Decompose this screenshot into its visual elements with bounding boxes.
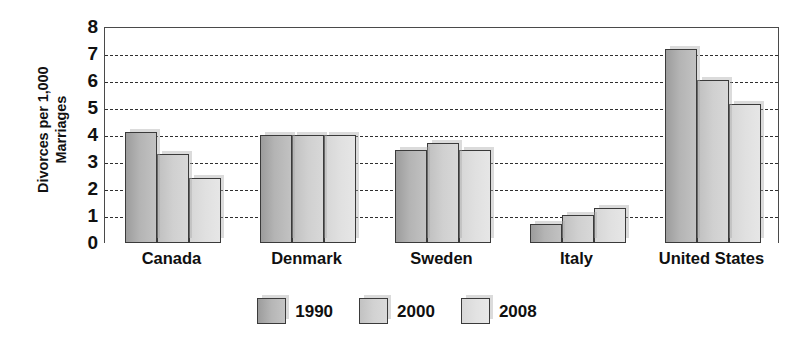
bar	[324, 135, 356, 243]
legend-swatch-icon	[257, 298, 286, 324]
bar-group	[665, 28, 761, 243]
legend-swatch-icon	[359, 298, 388, 324]
bar	[157, 154, 189, 243]
bar-group	[125, 28, 221, 243]
y-axis-title-line-2: Marriages	[53, 96, 69, 164]
y-tick-label: 2	[74, 179, 98, 198]
divorce-rate-bar-chart: Divorces per 1,000 Marriages 876543210 C…	[0, 0, 794, 356]
legend-item: 2008	[461, 298, 537, 324]
y-axis-title: Divorces per 1,000 Marriages	[35, 15, 70, 245]
y-tick-label: 8	[74, 17, 98, 36]
y-tick-label: 7	[74, 44, 98, 63]
bar	[189, 178, 221, 243]
bar	[530, 224, 562, 243]
bar	[729, 104, 761, 243]
bar	[459, 150, 491, 243]
bar	[697, 80, 729, 243]
bar-group	[395, 28, 491, 243]
y-tick-label: 1	[74, 206, 98, 225]
bar	[292, 135, 324, 243]
y-tick-label: 4	[74, 125, 98, 144]
legend-label: 2008	[499, 303, 537, 320]
bar-group	[260, 28, 356, 243]
plot-area	[104, 27, 779, 243]
bar	[665, 49, 697, 243]
legend-swatch-icon	[461, 298, 490, 324]
bar	[562, 215, 594, 243]
category-label: United States	[622, 250, 794, 267]
legend-label: 2000	[397, 303, 435, 320]
y-axis-title-line-1: Divorces per 1,000	[35, 67, 51, 193]
bar	[260, 135, 292, 243]
bar-group	[530, 28, 626, 243]
bar	[395, 150, 427, 243]
bar	[427, 143, 459, 243]
bar	[125, 132, 157, 243]
bar	[594, 208, 626, 243]
legend-item: 1990	[257, 298, 333, 324]
y-tick-label: 6	[74, 71, 98, 90]
y-tick-label: 5	[74, 98, 98, 117]
chart-legend: 199020002008	[0, 298, 794, 324]
legend-label: 1990	[295, 303, 333, 320]
y-tick-label: 3	[74, 152, 98, 171]
plot-inner	[105, 28, 778, 243]
legend-item: 2000	[359, 298, 435, 324]
